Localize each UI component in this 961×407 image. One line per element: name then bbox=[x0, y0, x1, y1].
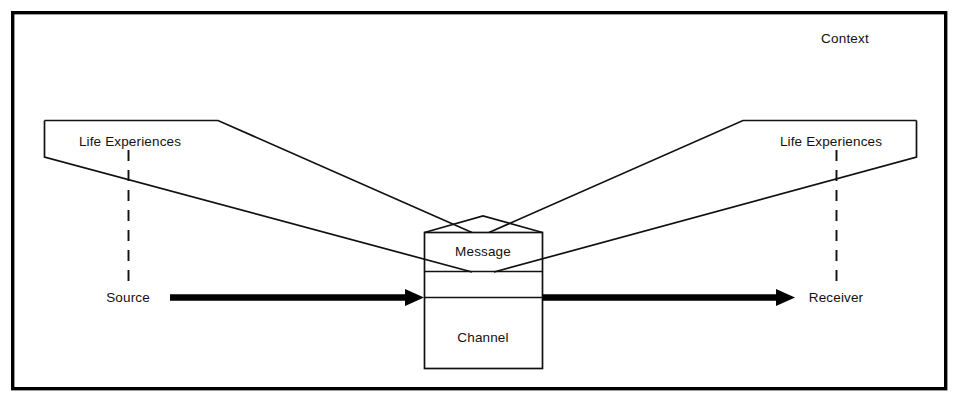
communication-model-diagram: Context Life Experiences Life Experience… bbox=[0, 0, 961, 407]
receiver-label: Receiver bbox=[809, 290, 864, 305]
life-experiences-right-label: Life Experiences bbox=[780, 134, 882, 149]
receiver-arrow-head bbox=[776, 289, 795, 306]
diagram-canvas: Context Life Experiences Life Experience… bbox=[0, 0, 961, 407]
life-experiences-left-label: Life Experiences bbox=[79, 134, 181, 149]
message-label: Message bbox=[455, 244, 511, 259]
context-label: Context bbox=[821, 31, 869, 46]
source-arrow-head bbox=[405, 289, 424, 306]
source-label: Source bbox=[106, 290, 150, 305]
channel-label: Channel bbox=[457, 330, 508, 345]
